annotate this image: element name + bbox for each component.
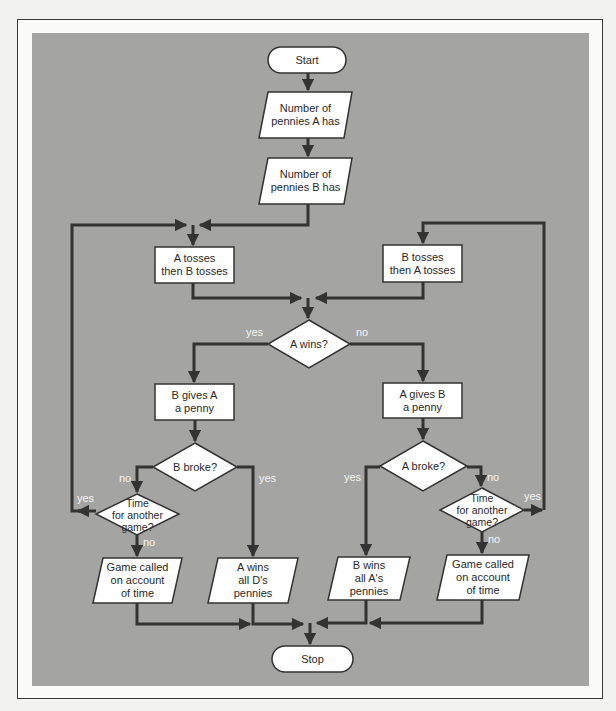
a-wins-all-parallelogram [208,558,298,603]
time-left-yes-label: yes [77,492,94,504]
time-right-no-label: no [488,533,500,545]
shapes [93,47,529,672]
b-wins-all-parallelogram [328,557,410,600]
time-right-diamond [440,488,524,532]
b-broke-no-label: no [119,472,131,484]
a-broke-yes-label: yes [344,471,361,483]
b-broke-yes-label: yes [259,472,276,484]
a-gives-b-box [383,383,462,418]
stop-terminator [272,646,353,672]
a-broke-no-label: no [487,471,499,483]
a-tosses-box [155,247,234,283]
a-wins-diamond [268,320,350,368]
input-b-parallelogram [259,158,352,204]
start-terminator [268,47,346,73]
time-left-diamond [96,494,179,535]
b-broke-diamond [153,443,237,491]
game-called-right-parallelogram [437,555,529,600]
a-wins-no-label: no [356,326,368,338]
a-wins-yes-label: yes [246,326,263,338]
time-left-no-label: no [143,536,155,548]
b-gives-a-box [155,384,234,420]
a-broke-diamond [380,441,467,491]
game-called-left-parallelogram [93,558,182,603]
flowchart-canvas [0,0,616,711]
input-a-parallelogram [259,92,352,138]
time-right-yes-label: yes [524,490,541,502]
b-tosses-box [383,245,462,282]
